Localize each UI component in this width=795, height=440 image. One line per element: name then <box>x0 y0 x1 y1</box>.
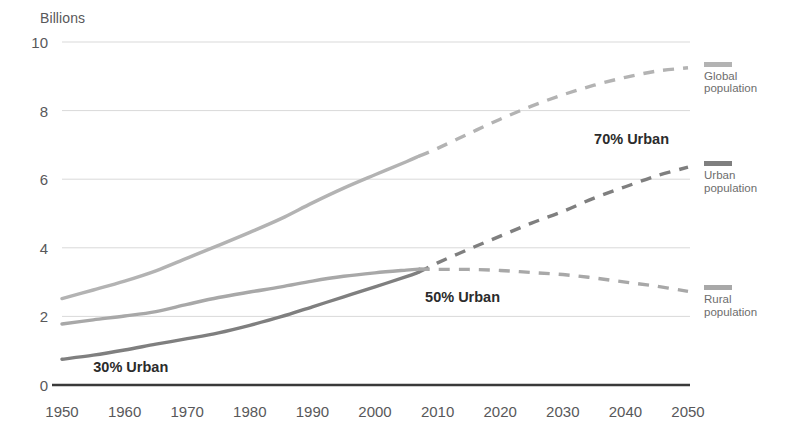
series-line-solid-2 <box>62 269 419 324</box>
legend-color-swatch <box>704 62 732 67</box>
y-tick-label: 10 <box>14 34 48 51</box>
y-tick-label: 0 <box>14 377 48 394</box>
x-tick-label: 1980 <box>220 403 280 420</box>
x-tick-label: 2020 <box>470 403 530 420</box>
legend-label-line1: Urban <box>704 169 784 182</box>
annotation-label: 50% Urban <box>425 289 500 305</box>
x-tick-label: 1970 <box>157 403 217 420</box>
annotation-label: 70% Urban <box>594 131 669 147</box>
annotation-label: 30% Urban <box>93 359 168 375</box>
y-tick-label: 8 <box>14 102 48 119</box>
y-tick-label: 2 <box>14 308 48 325</box>
legend-color-swatch <box>704 161 732 166</box>
legend-label-line2: population <box>704 306 784 319</box>
legend-entry: Ruralpopulation <box>704 285 784 318</box>
legend-color-swatch <box>704 285 732 290</box>
legend-label-line1: Rural <box>704 293 784 306</box>
x-tick-label: 2000 <box>345 403 405 420</box>
population-projection-chart: Billions 0246810 19501960197019801990200… <box>0 0 795 440</box>
legend-entry: Urbanpopulation <box>704 161 784 194</box>
legend-label-line1: Global <box>704 70 784 83</box>
x-tick-label: 2030 <box>533 403 593 420</box>
y-tick-label: 6 <box>14 171 48 188</box>
legend-label-line2: population <box>704 182 784 195</box>
x-tick-label: 1990 <box>282 403 342 420</box>
series-line-solid-0 <box>62 156 419 298</box>
legend-label-line2: population <box>704 82 784 95</box>
x-tick-label: 2040 <box>595 403 655 420</box>
x-tick-label: 1960 <box>95 403 155 420</box>
series-line-dashed-1 <box>419 167 688 272</box>
x-tick-label: 2010 <box>408 403 468 420</box>
legend-entry: Globalpopulation <box>704 62 784 95</box>
x-tick-label: 2050 <box>658 403 718 420</box>
x-tick-label: 1950 <box>32 403 92 420</box>
y-tick-label: 4 <box>14 239 48 256</box>
